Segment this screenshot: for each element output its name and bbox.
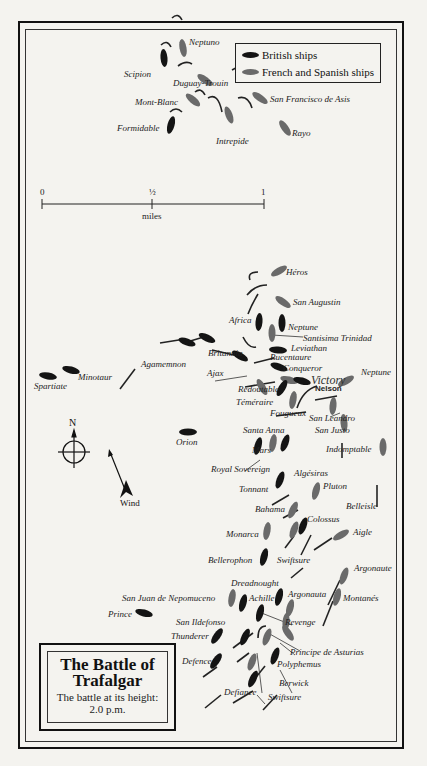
ship-label: Pluton — [323, 482, 347, 491]
ship-label: Indomptable — [326, 445, 372, 454]
ship-label: Bucentaure — [270, 353, 311, 362]
compass-icon — [58, 430, 90, 468]
ship-label: Revenge — [285, 618, 315, 627]
ship-label: Dreadnought — [231, 579, 279, 588]
ship-label: Tonnant — [239, 485, 268, 494]
ship-label: Neptune — [361, 368, 391, 377]
ship-label: Polyphemus — [277, 660, 321, 669]
ship-label: San Francisco de Asis — [270, 95, 350, 104]
ship-label: Neptuno — [189, 38, 220, 47]
ship-label: Thunderer — [171, 632, 209, 641]
ship-label: Duguay-Trouin — [173, 79, 228, 88]
ship-label: Royal Sovereign — [211, 465, 270, 474]
compass-north-label: N — [69, 417, 76, 428]
map-subtitle: The battle at its height: — [48, 691, 167, 703]
ship-label: San Juan de Nepomuceno — [122, 594, 215, 603]
legend-item-british: British ships — [242, 49, 317, 61]
ship-label: Minotaur — [78, 373, 112, 382]
ship-label: Mont-Blanc — [135, 98, 178, 107]
wind-arrow-icon — [108, 449, 133, 498]
british-ship-swatch-icon — [242, 52, 259, 58]
ship-label: Achille — [249, 594, 275, 603]
ship-label: Argonauta — [288, 590, 326, 599]
ship-label: Principe de Asturias — [290, 648, 364, 657]
ship-label: Rayo — [292, 129, 311, 138]
legend: British ships French and Spanish ships — [235, 43, 381, 83]
ship-label: Monarca — [226, 530, 259, 539]
ship-label: Montanés — [343, 594, 379, 603]
ship-label: Héros — [286, 268, 308, 277]
ship-label: Aigle — [353, 528, 372, 537]
legend-label-franco-spanish: French and Spanish ships — [262, 66, 374, 78]
ship-label: Mars — [252, 446, 271, 455]
flagship-label-nelson: Nelson — [315, 384, 342, 393]
ship-label: Britannia — [208, 349, 243, 358]
ship-label: Defiance — [224, 688, 256, 697]
ship-label: Intrepide — [216, 137, 249, 146]
title-box-inner: The Battle of Trafalgar The battle at it… — [47, 651, 168, 723]
ship-label: Orion — [176, 438, 198, 447]
ship-label: Spartiate — [34, 382, 67, 391]
ship-label: Formidable — [117, 124, 160, 133]
ship-label: Conqueror — [283, 364, 322, 373]
ship-label: San Leandro — [309, 414, 355, 423]
scale-tick-1: 1 — [261, 187, 266, 197]
ship-label: Fougueux — [270, 409, 306, 418]
ship-label: Santa Anna — [243, 426, 285, 435]
ship-label: Africa — [229, 316, 252, 325]
ship-label: San Augustin — [293, 298, 341, 307]
ship-label: Belleisle — [346, 502, 377, 511]
scale-bar — [42, 199, 264, 209]
ship-label: Berwick — [279, 679, 309, 688]
ship-label: Santisima Trinidad — [303, 334, 372, 343]
ship-label: Scipion — [124, 70, 151, 79]
map-time: 2.0 p.m. — [48, 703, 167, 715]
scale-tick-half: ½ — [149, 187, 156, 197]
ship-label: San Ildefonso — [176, 618, 225, 627]
ship-label: Ajax — [207, 369, 224, 378]
ship-label: Agamemnon — [141, 360, 186, 369]
ship-label: Bahama — [255, 505, 285, 514]
legend-label-british: British ships — [262, 49, 317, 61]
ship-label: Redoutable — [238, 385, 279, 394]
ship-label: Defence — [182, 657, 211, 666]
ship-label: Bellerophon — [208, 556, 252, 565]
map-title-line2: Trafalgar — [48, 673, 167, 689]
ship-label: Swiftsure — [277, 556, 310, 565]
scale-unit: miles — [142, 211, 162, 221]
wind-label: Wind — [120, 498, 140, 508]
ship-label: Neptune — [288, 323, 318, 332]
ship-label: Argonaute — [354, 564, 392, 573]
franco-spanish-ship-swatch-icon — [242, 69, 259, 75]
ship-label: Colossus — [307, 515, 340, 524]
ship-label: Téméraire — [236, 398, 273, 407]
ship-label: Algésiras — [294, 469, 328, 478]
scale-tick-0: 0 — [40, 187, 45, 197]
ship-label: Swiftsure — [268, 693, 301, 702]
ship-label: Prince — [108, 610, 132, 619]
legend-item-franco-spanish: French and Spanish ships — [242, 66, 374, 78]
ship-label: San Justo — [315, 426, 350, 435]
